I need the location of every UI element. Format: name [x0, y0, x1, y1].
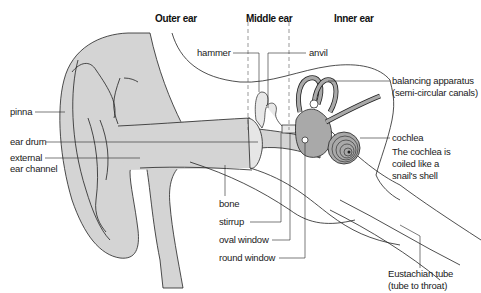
label-semicircular-canals: (semi-circular canals) [392, 87, 478, 99]
label-tube-to-throat: (tube to throat) [388, 280, 447, 292]
label-bone: bone [219, 198, 239, 210]
label-cochlea: cochlea [392, 132, 423, 144]
label-anvil: anvil [309, 47, 328, 59]
vestibule [295, 109, 331, 157]
label-round-window: round window [219, 252, 275, 264]
round-window-shape [302, 137, 308, 143]
label-external-ear-channel-2: ear channel [10, 163, 57, 175]
label-eustachian-tube: Eustachian tube [388, 268, 453, 280]
label-cochlea-note-1: The cochlea is [392, 146, 450, 158]
label-stirrup: stirrup [219, 216, 244, 228]
label-cochlea-note-2: coiled like a [392, 158, 439, 170]
anvil-bone [266, 103, 284, 128]
ear-canal [118, 118, 254, 170]
label-ear-drum: ear drum [10, 136, 46, 148]
ear-diagram: Outer ear Middle ear Inner ear pinna ear… [0, 0, 481, 293]
label-hammer: hammer [197, 47, 231, 59]
header-outer-ear: Outer ear [155, 13, 197, 24]
label-oval-window: oval window [219, 234, 269, 246]
cochlea-shape [328, 132, 360, 164]
header-middle-ear: Middle ear [246, 13, 292, 24]
hammer-bone [255, 92, 268, 128]
header-inner-ear: Inner ear [334, 13, 374, 24]
label-balancing-apparatus: balancing apparatus [392, 75, 474, 87]
label-external-ear-channel-1: external [10, 152, 42, 164]
label-pinna: pinna [10, 106, 32, 118]
label-cochlea-note-3: snail's shell [392, 170, 438, 182]
